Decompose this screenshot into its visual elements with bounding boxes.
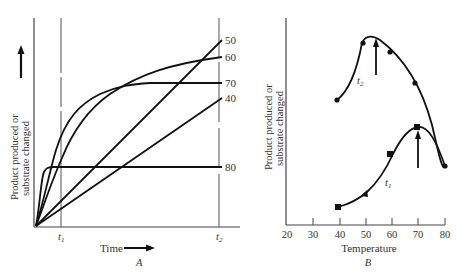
- panel-a-xlabel: Time: [100, 242, 123, 254]
- tick-80: 80: [440, 229, 451, 240]
- panel-a: 50 60 70 40 80 Product produced or subst…: [9, 18, 240, 268]
- curve-label-80: 80: [225, 161, 237, 173]
- panel-b-caption: B: [365, 257, 372, 268]
- curve-label-70: 70: [225, 77, 237, 89]
- tick-30: 30: [308, 229, 319, 240]
- time-arrowhead-icon: [146, 245, 155, 252]
- curve-t1: [338, 127, 445, 207]
- tick-40: 40: [335, 229, 346, 240]
- tick-60: 60: [387, 229, 398, 240]
- curve-label-40: 40: [225, 92, 237, 104]
- panel-b-x-ticks: [313, 218, 445, 225]
- t1-peak-arrowhead-icon: [415, 130, 421, 139]
- curve-50: [36, 40, 222, 226]
- curve-label-t1: t1: [385, 177, 391, 190]
- curve-label-t2: t2: [357, 75, 364, 88]
- curve-80: [36, 167, 222, 226]
- curve-label-50: 50: [225, 34, 237, 46]
- t1-points: [335, 124, 420, 210]
- panel-b: 20 30 40 50 60 70 80 Product produced or…: [263, 18, 450, 268]
- tick-20: 20: [282, 229, 293, 240]
- t2-tick-label: t2: [216, 231, 223, 244]
- figure: 50 60 70 40 80 Product produced or subst…: [0, 0, 463, 278]
- t1-tick-label: t1: [58, 231, 64, 244]
- y-axis-arrowhead-icon: [18, 45, 25, 54]
- panel-b-xlabel: Temperature: [341, 242, 397, 254]
- curve-40: [36, 98, 222, 226]
- panel-a-curves: [36, 40, 222, 226]
- t2-points: [334, 40, 447, 168]
- tick-70: 70: [413, 229, 424, 240]
- panel-a-ylabel-line2: substrate changed: [20, 120, 31, 196]
- curve-t2: [337, 37, 445, 167]
- panel-b-ylabel-line1: Product produced or: [263, 84, 274, 170]
- panel-b-ylabel-line2: substrate changed: [274, 90, 285, 166]
- panel-a-ylabel-line1: Product produced or: [9, 114, 20, 200]
- curve-label-60: 60: [225, 51, 237, 63]
- tick-50: 50: [361, 229, 372, 240]
- panel-a-caption: A: [135, 257, 143, 268]
